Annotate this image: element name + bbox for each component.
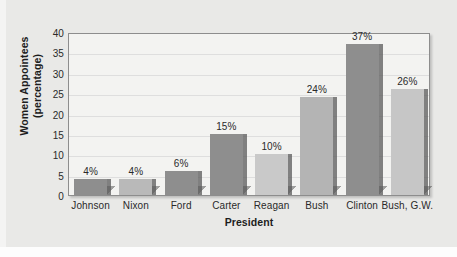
- plot-area: 4%4%6%15%10%24%37%26%: [68, 33, 430, 196]
- bar-shadow: [198, 186, 207, 195]
- bar[interactable]: 37%: [346, 44, 379, 195]
- bar-shadow: [424, 186, 433, 195]
- bar-face: [119, 179, 152, 195]
- bar-face: [255, 154, 288, 195]
- bar-group: 37%: [346, 34, 379, 195]
- bar-shadow: [288, 186, 297, 195]
- bar-side-edge: [379, 44, 383, 195]
- bar[interactable]: 15%: [210, 134, 243, 195]
- bar-face: [210, 134, 243, 195]
- bar-side-edge: [424, 89, 428, 195]
- y-tick-label: 35: [42, 48, 64, 59]
- bar-value-label: 37%: [352, 31, 372, 42]
- bar-shadow: [333, 186, 342, 195]
- bar-value-label: 4%: [83, 166, 98, 177]
- y-tick-label: 15: [42, 129, 64, 140]
- canvas-bottom-margin: [0, 247, 457, 257]
- y-axis-ticks: 4035302520151050: [40, 33, 64, 196]
- y-axis-title-line1: Women Appointees: [18, 36, 31, 135]
- bar[interactable]: 6%: [165, 171, 198, 195]
- bar-value-label: 15%: [216, 121, 236, 132]
- plot-inner: 4%4%6%15%10%24%37%26%: [69, 34, 429, 195]
- x-tick-label: Bush, G.W.: [379, 200, 436, 211]
- y-tick-label: 0: [42, 191, 64, 202]
- bar[interactable]: 4%: [74, 179, 107, 195]
- y-tick-label: 5: [42, 170, 64, 181]
- bar[interactable]: 24%: [300, 97, 333, 195]
- bar-group: 15%: [210, 34, 243, 195]
- bar-shadow: [379, 186, 388, 195]
- bar-shadow: [107, 186, 116, 195]
- bar-value-label: 24%: [307, 84, 327, 95]
- bar-face: [391, 89, 424, 195]
- bar-value-label: 26%: [397, 76, 417, 87]
- bar-value-label: 6%: [174, 158, 189, 169]
- bar-side-edge: [333, 97, 337, 195]
- chart-canvas: Women Appointees (percentage) 4035302520…: [0, 0, 457, 257]
- y-tick-label: 20: [42, 109, 64, 120]
- y-tick-label: 10: [42, 150, 64, 161]
- bar-face: [346, 44, 379, 195]
- y-tick-label: 40: [42, 28, 64, 39]
- bar-value-label: 4%: [129, 166, 144, 177]
- bar-face: [300, 97, 333, 195]
- bar-group: 4%: [119, 34, 152, 195]
- bar-group: 24%: [300, 34, 333, 195]
- bar[interactable]: 4%: [119, 179, 152, 195]
- x-axis-title: President: [68, 216, 430, 228]
- bar[interactable]: 10%: [255, 154, 288, 195]
- bar-group: 10%: [255, 34, 288, 195]
- bar-shadow: [152, 186, 161, 195]
- bar-group: 6%: [165, 34, 198, 195]
- bar-group: 26%: [391, 34, 424, 195]
- y-tick-label: 25: [42, 89, 64, 100]
- bar-value-label: 10%: [261, 141, 281, 152]
- bar-face: [74, 179, 107, 195]
- bar-shadow: [243, 186, 252, 195]
- bar[interactable]: 26%: [391, 89, 424, 195]
- y-tick-label: 30: [42, 68, 64, 79]
- bar-face: [165, 171, 198, 195]
- bar-group: 4%: [74, 34, 107, 195]
